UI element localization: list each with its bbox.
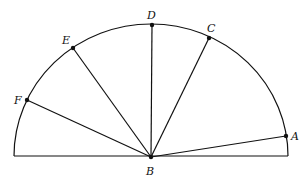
label-A: A (290, 130, 299, 143)
radius-BC (151, 38, 209, 157)
radius-BA (151, 136, 286, 157)
point-E (71, 46, 75, 50)
label-E: E (61, 34, 70, 47)
radius-BD (151, 25, 152, 157)
point-A (284, 134, 288, 138)
label-F: F (13, 94, 22, 107)
label-C: C (207, 22, 216, 35)
semicircle-diagram: A C D E F B (0, 0, 303, 180)
point-D (150, 23, 154, 27)
radius-BF (27, 100, 151, 157)
label-B: B (145, 165, 154, 178)
point-F (25, 98, 29, 102)
radius-BE (73, 48, 151, 157)
point-B (149, 155, 153, 159)
label-D: D (146, 9, 156, 22)
point-C (207, 36, 211, 40)
